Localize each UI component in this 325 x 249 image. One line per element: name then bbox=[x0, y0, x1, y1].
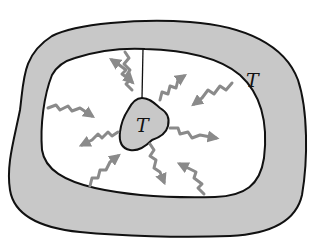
radiation-enclosure-diagram: T T bbox=[0, 0, 325, 249]
body-temperature-label: T bbox=[136, 114, 150, 136]
wall-temperature-label: T bbox=[246, 69, 260, 91]
